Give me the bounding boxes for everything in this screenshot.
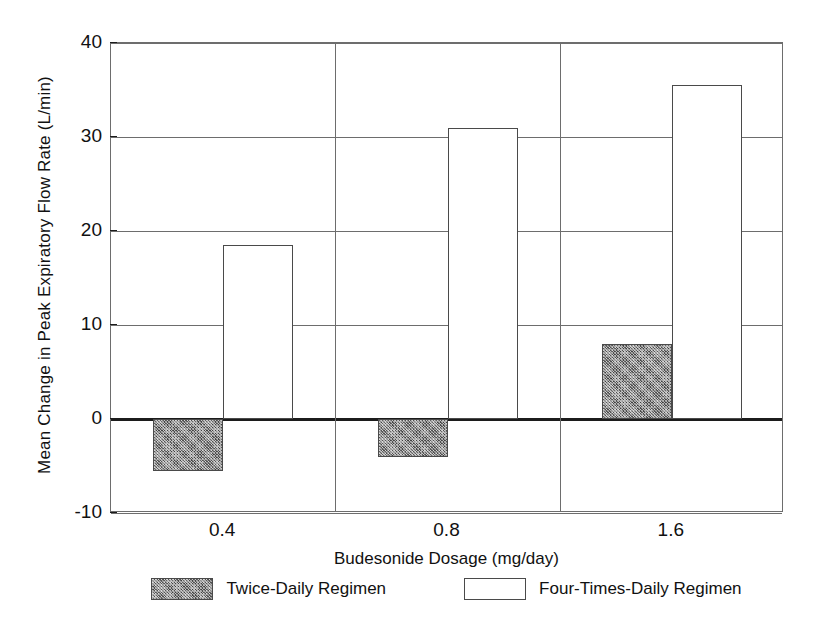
- legend-swatch-open: [464, 578, 526, 600]
- y-tick-mark: [110, 418, 117, 419]
- y-tick-label: 40: [42, 31, 102, 53]
- x-tick-label: 0.4: [209, 519, 235, 541]
- bar: [672, 85, 742, 419]
- legend-swatch-shaded: [151, 578, 213, 600]
- gridline: [111, 513, 782, 514]
- y-axis-tick-labels: 403020100-10: [32, 42, 102, 512]
- y-tick-mark: [110, 136, 117, 137]
- x-tick-label: 0.8: [433, 519, 459, 541]
- bar: [448, 128, 518, 419]
- y-tick-label: 30: [42, 125, 102, 147]
- legend-label: Four-Times-Daily Regimen: [539, 579, 741, 599]
- legend-entry: Four-Times-Daily Regimen: [464, 578, 741, 600]
- y-tick-mark: [110, 512, 117, 513]
- bar: [378, 419, 448, 457]
- legend-label: Twice-Daily Regimen: [226, 579, 386, 599]
- y-tick-label: 0: [42, 407, 102, 429]
- y-tick-mark: [110, 42, 117, 43]
- bar: [602, 344, 672, 419]
- x-tick-label: 1.6: [658, 519, 684, 541]
- y-tick-mark: [110, 324, 117, 325]
- plot-area: [110, 42, 783, 512]
- bar: [153, 419, 223, 471]
- x-axis-title: Budesonide Dosage (mg/day): [110, 549, 783, 569]
- bar: [223, 245, 293, 419]
- panel-separator: [560, 43, 561, 511]
- y-tick-label: 20: [42, 219, 102, 241]
- y-tick-mark: [110, 230, 117, 231]
- chart-legend: Twice-Daily RegimenFour-Times-Daily Regi…: [110, 578, 783, 600]
- bar-chart-figure: Mean Change in Peak Expiratory Flow Rate…: [0, 0, 816, 637]
- panel-separator: [335, 43, 336, 511]
- gridline: [111, 43, 782, 44]
- legend-entry: Twice-Daily Regimen: [151, 578, 386, 600]
- y-tick-label: -10: [42, 501, 102, 523]
- y-tick-label: 10: [42, 313, 102, 335]
